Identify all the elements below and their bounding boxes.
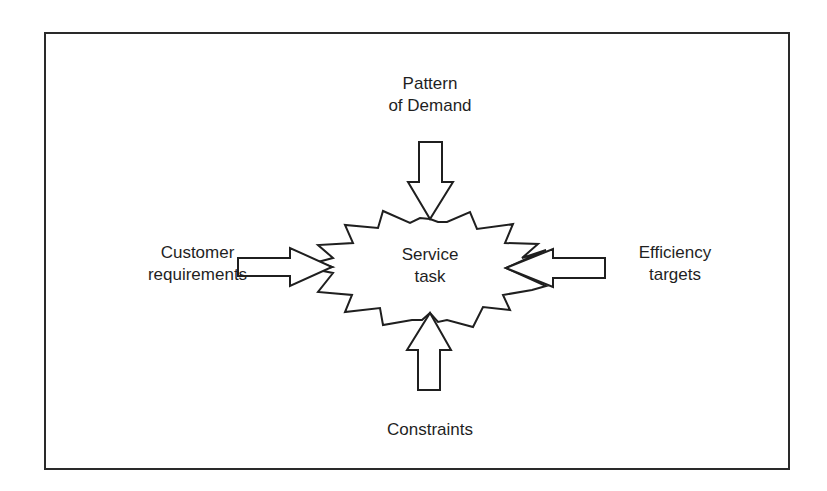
arrow-up-icon bbox=[407, 313, 451, 390]
label-line: requirements bbox=[120, 264, 275, 286]
label-line: Service bbox=[370, 244, 490, 266]
label-efficiency-targets: Efficiency targets bbox=[620, 242, 730, 286]
label-constraints: Constraints bbox=[350, 419, 510, 441]
label-line: Efficiency bbox=[620, 242, 730, 264]
arrow-down-icon bbox=[408, 142, 453, 219]
label-line: Pattern bbox=[360, 73, 500, 95]
label-service-task: Service task bbox=[370, 244, 490, 288]
label-customer-requirements: Customer requirements bbox=[120, 242, 275, 286]
label-line: of Demand bbox=[360, 95, 500, 117]
label-line: targets bbox=[620, 264, 730, 286]
label-line: task bbox=[370, 266, 490, 288]
label-line: Customer bbox=[120, 242, 275, 264]
label-line: Constraints bbox=[350, 419, 510, 441]
label-pattern-of-demand: Pattern of Demand bbox=[360, 73, 500, 117]
